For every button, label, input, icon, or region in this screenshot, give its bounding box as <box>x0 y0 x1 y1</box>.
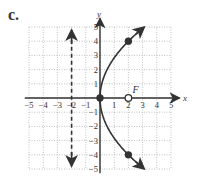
x-tick-label: 5 <box>169 100 173 110</box>
y-tick-label: 4 <box>94 36 99 46</box>
parabola-arrow-bottom <box>136 162 144 169</box>
data-point <box>97 95 103 101</box>
y-tick-label: 3 <box>94 50 98 60</box>
x-tick-label: 1 <box>112 100 116 110</box>
y-tick-label: 2 <box>94 65 98 75</box>
x-axis-label: x <box>182 93 187 103</box>
y-tick-label: 1 <box>94 79 98 89</box>
y-tick-label: −4 <box>89 150 99 160</box>
data-point <box>125 152 131 158</box>
focus-point <box>125 95 132 102</box>
x-tick-label: −4 <box>39 100 49 110</box>
focus-label: F <box>131 84 139 95</box>
y-tick-label: 5 <box>94 22 98 32</box>
data-point <box>125 38 131 44</box>
y-tick-label: −2 <box>89 121 98 131</box>
x-tick-label: −3 <box>53 100 62 110</box>
parabola-arrow-top <box>136 27 144 34</box>
x-tick-label: −5 <box>24 100 33 110</box>
y-tick-label: −1 <box>89 107 98 117</box>
y-axis-label: y <box>96 9 101 19</box>
parabola-chart: xy−5−4−3−2−11234554321−1−2−3−4−5F <box>0 0 197 184</box>
x-tick-label: 3 <box>140 100 144 110</box>
x-tick-label: 4 <box>155 100 160 110</box>
y-tick-label: −3 <box>89 136 98 146</box>
y-tick-label: −5 <box>89 164 98 174</box>
